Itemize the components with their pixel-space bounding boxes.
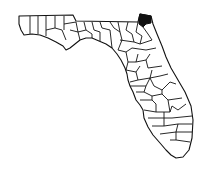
florida-county-map: Florida Nassau County — [0, 0, 198, 181]
florida-outline — [19, 14, 193, 158]
map-svg — [0, 0, 198, 181]
